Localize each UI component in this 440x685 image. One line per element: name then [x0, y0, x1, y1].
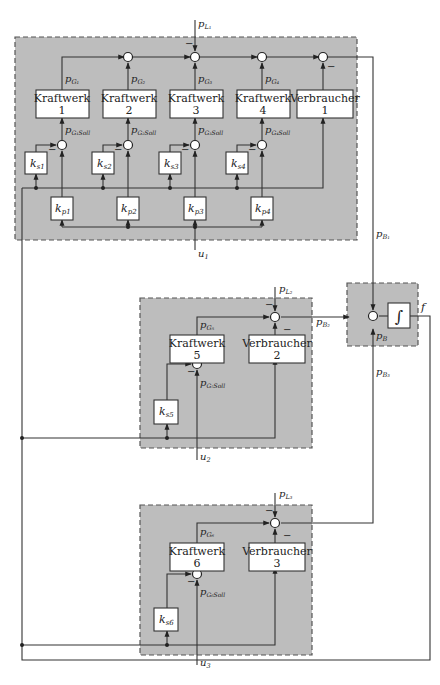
- sum-node: [258, 53, 267, 62]
- kp1-sub: p1: [62, 208, 71, 216]
- minus-sign: −: [187, 366, 195, 377]
- sum-node: [58, 141, 67, 150]
- minus-sign: −: [265, 299, 273, 310]
- pg5soll-sub: G₅Soll: [206, 382, 225, 389]
- minus-sign: −: [181, 144, 189, 155]
- ks3-sub: s3: [171, 163, 180, 171]
- pg1-sub: G₁: [71, 78, 79, 86]
- verbraucher-2-num: 2: [274, 349, 281, 362]
- svg-text:u1: u1: [198, 248, 209, 261]
- sum-node-b: [369, 312, 378, 321]
- minus-sign: −: [185, 38, 193, 49]
- minus-sign: −: [187, 576, 195, 587]
- svg-text:pL₁: pL₁: [198, 18, 211, 31]
- pg2-sub: G₂: [137, 78, 145, 86]
- pg1soll-sub: G₁Soll: [71, 129, 90, 136]
- pb2-sub: B₂: [321, 321, 330, 329]
- u3-sub: 3: [206, 662, 210, 670]
- region-3: [140, 505, 312, 655]
- sum-node: [124, 141, 133, 150]
- svg-text:pB₂: pB₂: [316, 316, 330, 329]
- ks2-sub: s2: [104, 163, 113, 171]
- u2-sub: 2: [205, 456, 210, 464]
- pg6soll-sub: G₆Soll: [206, 591, 225, 598]
- kp2-sub: p2: [128, 208, 137, 216]
- kraftwerk-3-num: 3: [193, 104, 200, 117]
- kraftwerk-4-num: 4: [260, 104, 267, 117]
- ks4-sub: s4: [238, 163, 246, 171]
- minus-sign: −: [327, 61, 335, 72]
- ks5-sub: s5: [166, 411, 175, 419]
- kraftwerk-1-num: 1: [59, 104, 66, 117]
- svg-text:pB₁: pB₁: [376, 228, 390, 241]
- pg5-sub: G₅: [206, 324, 214, 332]
- pl1-sub: L₁: [203, 23, 211, 31]
- pg3soll-sub: G₃Soll: [204, 129, 223, 136]
- pb-sub: B: [381, 335, 387, 343]
- sum-node: [124, 53, 133, 62]
- pl3-sub: L₃: [284, 493, 292, 501]
- sum-node: [191, 53, 200, 62]
- f-label: f: [420, 301, 427, 314]
- verbraucher-1-num: 1: [322, 104, 329, 117]
- pb1-sub: B₁: [381, 233, 389, 241]
- pl2-sub: L₂: [284, 288, 292, 296]
- u1-sub: 1: [204, 253, 208, 261]
- minus-sign: −: [283, 324, 291, 335]
- minus-sign: −: [265, 505, 273, 516]
- minus-sign: −: [48, 144, 56, 155]
- kraftwerk-6-num: 6: [194, 557, 201, 570]
- kraftwerk-5-num: 5: [194, 349, 201, 362]
- integrator-symbol: ∫: [395, 307, 403, 326]
- sum-node: [258, 141, 267, 150]
- pg6-sub: G₆: [206, 531, 214, 539]
- sum-node: [191, 141, 200, 150]
- kp4-sub: p4: [262, 208, 271, 216]
- pg2soll-sub: G₂Soll: [137, 129, 156, 136]
- kp3-sub: p3: [195, 208, 204, 216]
- svg-text:pL₂: pL₂: [279, 283, 293, 296]
- sum-node: [271, 313, 280, 322]
- minus-sign: −: [248, 144, 256, 155]
- minus-sign: −: [114, 144, 122, 155]
- pg4soll-sub: G₄Soll: [271, 129, 290, 136]
- svg-text:u2: u2: [200, 451, 211, 464]
- minus-sign: −: [283, 530, 291, 541]
- sum-node: [271, 519, 280, 528]
- pb3-sub: B₃: [381, 371, 390, 379]
- verbraucher-3-num: 3: [274, 557, 281, 570]
- kraftwerk-2-num: 2: [126, 104, 133, 117]
- ks1-sub: s1: [37, 163, 45, 171]
- svg-text:u3: u3: [200, 657, 211, 670]
- pg3-sub: G₃: [204, 78, 212, 86]
- power-system-block-diagram: Kraftwerk 1 Kraftwerk 2 Kraftwerk 3 Kraf…: [0, 0, 440, 685]
- region-2: [140, 298, 312, 448]
- pg4-sub: G₄: [271, 78, 279, 86]
- svg-text:pL₃: pL₃: [279, 488, 293, 501]
- ks6-sub: s6: [166, 619, 175, 627]
- svg-text:pB₃: pB₃: [376, 366, 390, 379]
